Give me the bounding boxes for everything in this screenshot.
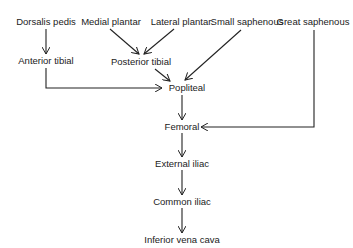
arrow-lateral-to-posterior [144,29,174,54]
arrow-anterior-to-popliteal [46,68,162,88]
node-dorsalis-pedis: Dorsalis pedis [16,17,76,27]
arrow-medial-to-posterior [110,29,139,54]
arrow-posterior-to-popliteal [155,69,170,81]
arrow-great-saphenous-to-femoral [201,30,314,127]
node-popliteal: Popliteal [169,83,205,93]
node-anterior-tibial: Anterior tibial [18,56,73,66]
vein-flow-diagram: Dorsalis pedis Medial plantar Lateral pl… [0,0,353,248]
node-medial-plantar: Medial plantar [81,17,141,27]
node-femoral: Femoral [165,122,200,132]
node-external-iliac: External iliac [155,159,209,169]
node-lateral-plantar: Lateral plantar [151,17,212,27]
node-common-iliac: Common iliac [153,197,211,207]
node-inferior-vena-cava: Inferior vena cava [144,235,220,245]
arrow-small-saphenous-to-popliteal [185,30,241,80]
node-posterior-tibial: Posterior tibial [111,57,171,67]
node-small-saphenous: Small saphenous [211,17,284,27]
node-great-saphenous: Great saphenous [277,17,350,27]
